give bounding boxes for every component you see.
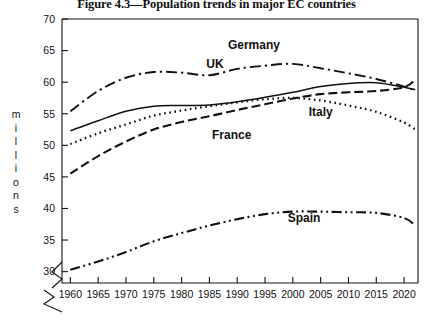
y-tick-label: 70 [43,13,55,25]
x-tick-label: 1970 [114,288,138,300]
y-axis-title-letter: s [13,203,18,215]
y-tick-label: 55 [43,108,55,120]
series-line-germany [70,64,415,111]
y-tick-label: 30 [43,265,55,277]
series-label-spain: Spain [288,211,321,225]
x-tick-label: 2020 [392,288,416,300]
x-axis-ticks [70,277,404,283]
x-tick-label: 1985 [198,288,222,300]
x-tick-label: 2010 [337,288,361,300]
x-tick-label: 1965 [86,288,110,300]
y-axis-ticks [62,19,68,272]
series-label-uk: UK [206,57,224,71]
y-axis-tick-labels: 303540455055606570 [43,13,55,278]
series-line-france [70,80,415,174]
series-line-uk [70,83,415,131]
series-label-france: France [212,128,252,142]
y-tick-label: 45 [43,171,55,183]
y-tick-label: 35 [43,234,55,246]
y-axis-title-letter: m [12,108,21,120]
series-line-spain [70,211,415,269]
y-axis-title-letter: l [15,135,17,147]
series-label-germany: Germany [228,38,280,52]
y-tick-label: 40 [43,202,55,214]
x-tick-label: 1990 [226,288,250,300]
x-tick-label: 2000 [281,288,305,300]
y-axis-title-letter: i [15,122,17,134]
plot-frame [62,19,418,283]
x-axis-tick-labels: 1960196519701975198019851990199520002005… [59,288,416,300]
y-axis-title-letter: n [13,189,19,201]
population-trends-chart: 303540455055606570 196019651970197519801… [0,0,433,325]
y-axis-title: millions [12,108,21,215]
y-tick-label: 50 [43,139,55,151]
x-tick-label: 1980 [170,288,194,300]
x-tick-label: 1975 [142,288,166,300]
y-axis-title-letter: o [13,176,19,188]
chart-canvas: 303540455055606570 196019651970197519801… [0,0,433,325]
series-label-italy: Italy [309,105,333,119]
y-tick-label: 65 [43,44,55,56]
x-tick-label: 1960 [59,288,83,300]
y-tick-label: 60 [43,76,55,88]
y-axis-title-letter: i [15,162,17,174]
x-tick-label: 2015 [365,288,389,300]
x-tick-label: 2005 [309,288,333,300]
series-curves [70,64,415,270]
y-axis-title-letter: l [15,149,17,161]
x-tick-label: 1995 [253,288,277,300]
